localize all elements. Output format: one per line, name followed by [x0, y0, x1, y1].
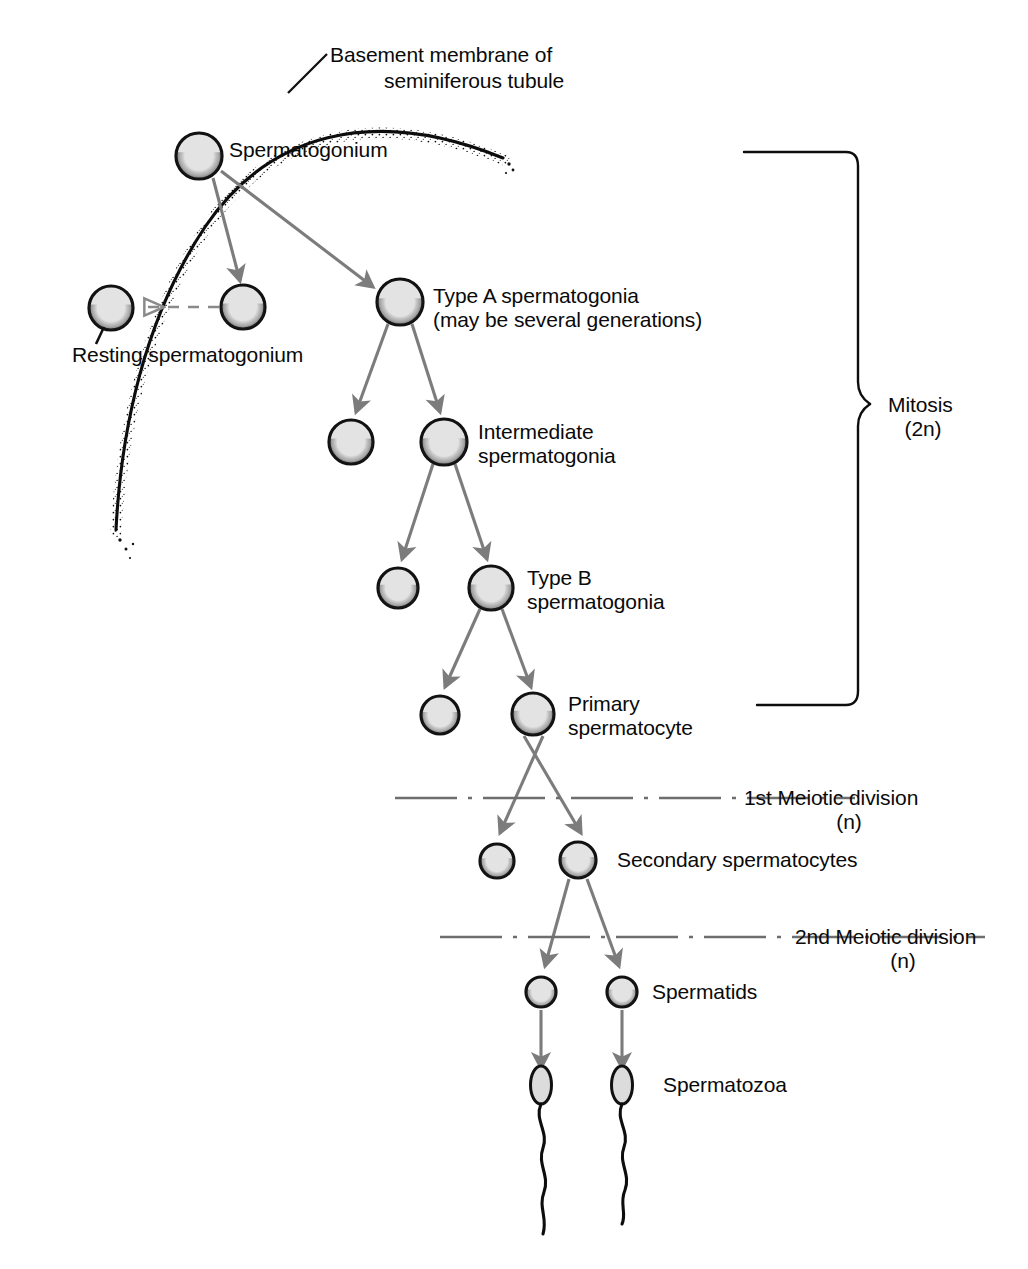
spermatogonium-label: Spermatogonium: [229, 137, 388, 162]
cell-intermediate-spermatogonia-right: [421, 419, 467, 465]
cell-primary-spermatocyte-right: [512, 693, 554, 735]
type-b-spermatogonia-label-line1: Type B: [527, 565, 592, 590]
cell-spermatogonium: [176, 133, 222, 179]
cell-secondary-spermatocyte-left: [480, 844, 514, 878]
cell-primary-spermatocyte-left: [421, 696, 459, 734]
mitosis-ploidy-label: (2n): [905, 416, 942, 441]
second-meiotic-division-ploidy: (n): [890, 948, 915, 973]
cell-type-b-spermatogonia-right: [469, 566, 513, 610]
type-b-spermatogonia-label-line2: spermatogonia: [527, 589, 665, 614]
cell-spermatogonium-daughter: [221, 285, 265, 329]
arrow-spermatogonium-to-type-a: [221, 171, 373, 287]
resting-spermatogonium-label: Resting spermatogonium: [72, 342, 303, 367]
cell-spermatid-left: [526, 977, 556, 1007]
spermatozoon-right: [612, 1066, 633, 1224]
arrow-secondary-right: [587, 879, 619, 966]
arrow-secondary-left: [545, 879, 569, 966]
arrow-type-b-left: [445, 609, 480, 687]
arrow-primary-left-cross: [500, 736, 543, 833]
arrow-type-b-right: [502, 609, 531, 687]
spermatozoa: [531, 1066, 633, 1234]
primary-spermatocyte-label-line1: Primary: [568, 691, 640, 716]
type-a-spermatogonia-label-line2: (may be several generations): [433, 307, 702, 332]
second-meiotic-division-label: 2nd Meiotic division: [795, 924, 976, 949]
cell-spermatid-right: [607, 977, 637, 1007]
diagram-canvas: [0, 0, 1028, 1269]
cell-resting-spermatogonium: [89, 286, 133, 344]
type-a-spermatogonia-label-line1: Type A spermatogonia: [433, 283, 639, 308]
first-meiotic-division-label: 1st Meiotic division: [744, 785, 918, 810]
spermatids-label: Spermatids: [652, 979, 757, 1004]
spermatozoon-left: [531, 1066, 552, 1234]
basement-membrane-label-line1: Basement membrane of: [330, 42, 552, 67]
secondary-spermatocytes-label: Secondary spermatocytes: [617, 847, 857, 872]
arrow-primary-right-cross: [524, 736, 581, 833]
intermediate-spermatogonia-label-line1: Intermediate: [478, 419, 594, 444]
first-meiotic-division-ploidy: (n): [836, 809, 861, 834]
mitosis-label: Mitosis: [888, 392, 953, 417]
basement-membrane-label-line2: seminiferous tubule: [384, 68, 564, 93]
cell-intermediate-spermatogonia-left: [329, 420, 373, 464]
spermatogenesis-diagram: Basement membrane of seminiferous tubule…: [0, 0, 1028, 1269]
mitosis-bracket: [744, 152, 870, 705]
cell-type-a-spermatogonia: [377, 279, 423, 325]
arrow-type-a-left: [356, 324, 388, 412]
arrow-intermediate-right: [455, 464, 487, 559]
spermatozoa-label: Spermatozoa: [663, 1072, 787, 1097]
cell-secondary-spermatocyte-right: [560, 842, 596, 878]
arrow-intermediate-left: [402, 464, 433, 559]
primary-spermatocyte-label-line2: spermatocyte: [568, 715, 693, 740]
arrow-type-a-right: [412, 324, 440, 412]
cell-type-b-spermatogonia-left: [378, 568, 418, 608]
intermediate-spermatogonia-label-line2: spermatogonia: [478, 443, 616, 468]
